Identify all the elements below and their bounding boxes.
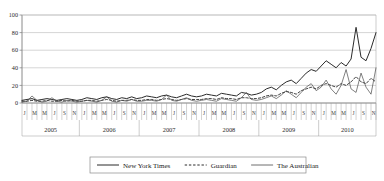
x-month-label: M	[212, 110, 217, 116]
x-month-label: J	[323, 110, 325, 116]
x-year-label: 2006	[103, 126, 116, 133]
x-month-label: S	[123, 110, 126, 116]
x-month-label: N	[72, 110, 76, 116]
x-month-label: M	[92, 110, 97, 116]
plot-area	[22, 15, 376, 103]
x-month-label: M	[281, 110, 286, 116]
legend-label-1: Guardian	[211, 162, 238, 170]
y-axis-label: 0	[15, 99, 18, 106]
x-year-label: 2007	[163, 126, 177, 133]
x-month-label: M	[32, 110, 37, 116]
x-month-label: N	[192, 110, 196, 116]
x-month-label: S	[362, 110, 365, 116]
x-month-label: J	[143, 110, 145, 116]
x-year-label: 2010	[341, 126, 354, 133]
x-year-label: 2009	[282, 126, 295, 133]
x-month-label: J	[203, 110, 205, 116]
line-chart: 020406080100JMMJSNJMMJSNJMMJSNJMMJSNJMMJ…	[0, 0, 384, 181]
x-month-label: J	[233, 110, 235, 116]
x-month-label: J	[263, 110, 265, 116]
x-year-label: 2008	[223, 126, 236, 133]
y-axis-label: 100	[9, 11, 18, 18]
y-axis-label: 20	[12, 82, 18, 89]
x-month-label: S	[242, 110, 245, 116]
x-month-label: J	[173, 110, 175, 116]
x-month-label: N	[312, 110, 316, 116]
x-year-label: 2005	[44, 126, 57, 133]
x-month-label: N	[252, 110, 256, 116]
x-month-label: J	[353, 110, 355, 116]
x-month-label: M	[341, 110, 346, 116]
y-axis-label: 60	[12, 46, 18, 53]
x-month-label: N	[132, 110, 136, 116]
x-month-label: M	[271, 110, 276, 116]
x-month-label: S	[302, 110, 305, 116]
x-month-label: S	[183, 110, 186, 116]
x-month-label: M	[102, 110, 107, 116]
chart-container: 020406080100JMMJSNJMMJSNJMMJSNJMMJSNJMMJ…	[0, 0, 384, 181]
x-month-label: J	[293, 110, 295, 116]
x-month-label: M	[222, 110, 227, 116]
x-month-label: M	[42, 110, 47, 116]
x-month-label: J	[23, 110, 25, 116]
y-axis-label: 40	[12, 64, 18, 71]
x-month-label: N	[372, 110, 376, 116]
x-month-label: M	[152, 110, 157, 116]
y-axis-label: 80	[12, 29, 18, 36]
x-month-label: S	[63, 110, 66, 116]
x-month-label: J	[83, 110, 85, 116]
x-month-label: J	[53, 110, 55, 116]
legend-label-2: The Australian	[277, 162, 319, 170]
legend-label-0: New York Times	[123, 162, 171, 170]
x-month-label: M	[331, 110, 336, 116]
x-month-label: J	[113, 110, 115, 116]
x-month-label: M	[162, 110, 167, 116]
